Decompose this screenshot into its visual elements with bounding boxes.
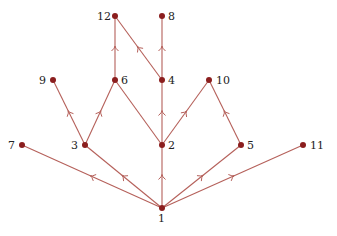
edge-1-2 bbox=[159, 145, 166, 208]
node-6 bbox=[112, 77, 118, 83]
graph-canvas: 123456789101112 bbox=[0, 0, 337, 236]
edge-1-11 bbox=[162, 145, 303, 208]
node-11 bbox=[300, 142, 306, 148]
node-label-12: 12 bbox=[97, 11, 111, 22]
edge-1-3 bbox=[85, 145, 162, 208]
edge-3-6 bbox=[85, 80, 115, 145]
node-5 bbox=[238, 142, 244, 148]
node-label-10: 10 bbox=[216, 75, 230, 86]
edge-2-6 bbox=[115, 80, 162, 145]
node-label-4: 4 bbox=[168, 75, 175, 86]
node-12 bbox=[112, 13, 118, 19]
edge-6-12 bbox=[112, 16, 119, 80]
node-4 bbox=[159, 77, 165, 83]
node-10 bbox=[206, 77, 212, 83]
node-label-11: 11 bbox=[310, 140, 324, 151]
node-8 bbox=[159, 13, 165, 19]
edge-2-4 bbox=[159, 80, 166, 145]
node-label-6: 6 bbox=[121, 75, 128, 86]
node-9 bbox=[50, 77, 56, 83]
edge-4-8 bbox=[159, 16, 166, 80]
edge-5-10 bbox=[209, 80, 241, 145]
node-label-8: 8 bbox=[168, 11, 175, 22]
node-label-1: 1 bbox=[158, 213, 165, 224]
node-label-2: 2 bbox=[168, 140, 175, 151]
edge-2-10 bbox=[162, 80, 209, 145]
node-label-5: 5 bbox=[247, 140, 254, 151]
node-1 bbox=[159, 205, 165, 211]
node-label-7: 7 bbox=[8, 140, 15, 151]
node-3 bbox=[82, 142, 88, 148]
edge-1-7 bbox=[22, 145, 162, 208]
node-2 bbox=[159, 142, 165, 148]
node-7 bbox=[19, 142, 25, 148]
node-label-9: 9 bbox=[39, 75, 46, 86]
node-label-3: 3 bbox=[71, 140, 78, 151]
edge-4-12 bbox=[115, 16, 162, 80]
edge-3-9 bbox=[53, 80, 85, 145]
edge-1-5 bbox=[162, 145, 241, 208]
graph-svg bbox=[0, 0, 337, 236]
